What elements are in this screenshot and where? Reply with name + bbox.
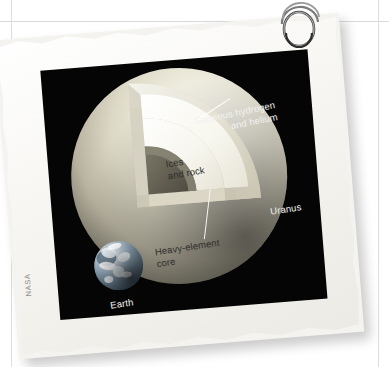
photo-frame: Gaseous hydrogen and helium Ices and roc… — [0, 13, 364, 360]
leader-line-core — [200, 188, 214, 239]
page-background: Gaseous hydrogen and helium Ices and roc… — [0, 0, 389, 367]
binder-ring-icon[interactable] — [277, 2, 321, 54]
diagram-plate: Gaseous hydrogen and helium Ices and roc… — [40, 49, 327, 320]
photo-credit-nasa: NASA — [23, 273, 34, 296]
leader-lines — [40, 49, 327, 320]
photo-card[interactable]: Gaseous hydrogen and helium Ices and roc… — [0, 13, 364, 360]
page-rule-vertical-right — [378, 0, 379, 367]
